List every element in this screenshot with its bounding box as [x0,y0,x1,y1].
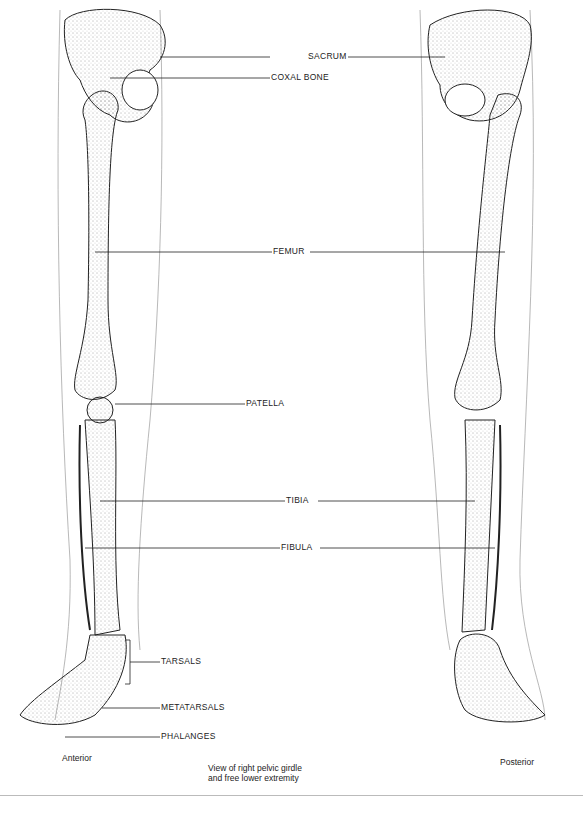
view-posterior: Posterior [500,757,534,767]
label-phalanges: PHALANGES [160,731,217,741]
caption-line-1: View of right pelvic girdle [208,763,302,773]
label-tibia: TIBIA [285,495,310,505]
skeleton-illustration [0,0,583,813]
label-patella: PATELLA [245,398,285,408]
label-tarsals: TARSALS [160,656,202,666]
figure-caption: View of right pelvic girdle and free low… [208,763,302,783]
view-anterior: Anterior [62,753,92,763]
label-femur: FEMUR [272,246,306,256]
label-fibula: FIBULA [280,542,314,552]
label-coxal-bone: COXAL BONE [270,72,330,82]
bottom-divider [0,795,583,796]
label-metatarsals: METATARSALS [160,702,226,712]
caption-line-2: and free lower extremity [208,773,302,783]
label-sacrum: SACRUM [307,51,348,61]
